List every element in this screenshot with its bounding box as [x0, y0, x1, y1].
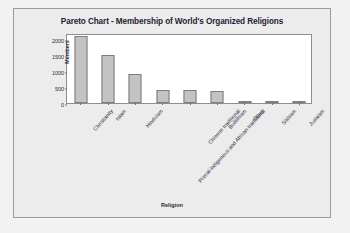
- x-tick-mark: [299, 103, 300, 105]
- chart-panel: Pareto Chart - Membership of World's Org…: [13, 8, 331, 218]
- bar[interactable]: [74, 36, 87, 103]
- bar[interactable]: [102, 55, 115, 103]
- x-tick-mark: [190, 103, 191, 105]
- bar[interactable]: [129, 74, 142, 103]
- x-axis-title: Religion: [14, 202, 330, 208]
- x-category-label: Islam: [114, 108, 127, 122]
- bar-slot[interactable]: [238, 33, 251, 103]
- bar[interactable]: [184, 90, 197, 103]
- x-category-label: Judaism: [308, 108, 326, 127]
- x-tick-mark: [272, 103, 273, 105]
- y-tick-label: 1000: [52, 70, 64, 76]
- x-tick-mark: [135, 103, 136, 105]
- y-tick-label: 2000: [52, 38, 64, 44]
- bars-layer: [67, 35, 311, 103]
- x-tick-mark: [108, 103, 109, 105]
- x-tick-mark: [80, 103, 81, 105]
- x-tick-mark: [162, 103, 163, 105]
- bar-slot[interactable]: [266, 33, 279, 103]
- chart-screenshot: Pareto Chart - Membership of World's Org…: [0, 0, 350, 233]
- plot-area: Members 0500100015002000: [66, 34, 312, 104]
- bar-slot[interactable]: [211, 33, 224, 103]
- y-tick-label: 0: [61, 102, 64, 108]
- chart-title: Pareto Chart - Membership of World's Org…: [14, 17, 330, 26]
- bar-slot[interactable]: [184, 33, 197, 103]
- bar-slot[interactable]: [74, 33, 87, 103]
- bar[interactable]: [211, 91, 224, 103]
- bar-slot[interactable]: [156, 33, 169, 103]
- x-category-label: Hinduism: [145, 108, 164, 129]
- x-tick-mark: [217, 103, 218, 105]
- x-category-label: Sikhism: [280, 108, 297, 126]
- y-tick-label: 500: [55, 86, 64, 92]
- x-tick-mark: [244, 103, 245, 105]
- bar[interactable]: [156, 90, 169, 103]
- bar-slot[interactable]: [102, 33, 115, 103]
- bar-slot[interactable]: [129, 33, 142, 103]
- y-tick-label: 1500: [52, 54, 64, 60]
- x-category-label: Christianity: [91, 108, 113, 132]
- bar-slot[interactable]: [293, 33, 306, 103]
- y-tick-mark: [65, 105, 67, 106]
